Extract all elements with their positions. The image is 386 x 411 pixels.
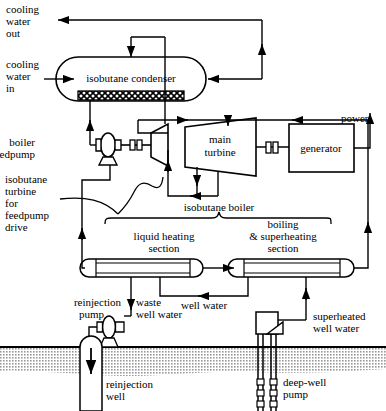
superheated-well-water-line1: superheated [313,310,366,322]
cooling-water-in-line3: in [6,82,15,94]
liquid-heating-shell [80,259,203,277]
liquid-heating-line2: section [148,242,180,254]
reinjection-pump-line1: reinjection [74,296,122,308]
boiling-superheating-shell [228,259,354,277]
liquid-heating-line1: liquid heating [134,230,195,242]
drive-turbine-body [151,124,168,166]
deep-well-pump-line2: pump [283,388,309,400]
reinjection-pump-base [100,338,118,347]
isobutane-turbine-line4: feedpump [5,209,49,221]
isobutane-turbine-line1: isobutane [5,173,47,185]
cooling-water-in-line2: water [6,70,31,82]
feedpump-impeller-casing [101,133,116,157]
reinjection-pump-casing [103,316,116,338]
generator-label: generator [300,142,342,154]
condenser-label: isobutane condenser [86,72,176,84]
isobutane-turbine-line3: for [5,197,18,209]
cooling-water-out-line2: water [6,15,31,27]
generator-shaft-coupling [256,142,289,153]
boiling-superheating-line1: boiling [267,218,299,230]
feedpump-discharge-nozzle [115,140,121,150]
diagram-canvas: isobutane condenser [0,0,386,411]
boiler-feedpump [96,133,121,165]
reinjection-well-line2: well [106,390,125,402]
reinjection-well [80,336,102,411]
power-label: power [341,112,369,124]
isobutane-turbine-line5: drive [5,221,28,233]
feedpump-base [99,157,117,165]
feedpump-shaft-coupling [121,140,151,150]
main-turbine: main turbine [185,118,256,176]
isobutane-feed-pipe [82,165,110,268]
waste-well-water-pipe [124,277,131,316]
liquid-heating-section [80,259,203,277]
boiling-superheating-line2: & superheating [249,230,317,242]
cooling-water-out-line3: out [6,27,20,39]
condenser-tube-bundle [78,91,184,100]
boiling-superheating-line3: section [267,242,299,254]
isobutane-boiler-label: isobutane boiler [184,201,255,213]
ground-fill [0,347,386,376]
process-flow-diagram: isobutane condenser [0,0,386,411]
reinjection-pump-suction-nozzle [97,322,103,332]
boiling-superheating-section [228,259,354,277]
generator: generator [289,124,354,172]
deep-well-pump-line1: deep-well [283,376,326,388]
boiler-feedpump-line2: feedpump [0,148,35,160]
reinjection-pump-discharge-nozzle [116,322,125,332]
isobutane-condenser: isobutane condenser [56,57,206,101]
feedpump-suction-nozzle [96,139,101,151]
cooling-water-out-line1: cooling [6,3,39,15]
well-water-crossover-pipe [160,277,248,296]
main-turbine-label-line2: turbine [204,146,235,158]
isobutane-turbine-line2: turbine [5,185,36,197]
cooling-water-in-line1: cooling [6,58,39,70]
waste-well-water-line2: well water [136,308,182,320]
superheated-well-water-pipe [276,277,306,320]
isobutane-drive-turbine [151,124,168,166]
deep-well-pump-stages [257,379,277,407]
boiler-feedpump-line1: boiler [9,136,35,148]
waste-well-water-line1: waste [136,296,161,308]
reinjection-pump-line2: pump [79,308,105,320]
condensate-pipe [90,100,96,145]
superheated-well-water-line2: well water [313,322,359,334]
reinjection-well-line1: reinjection [106,378,154,390]
isobutane-turbine-leader-line [60,177,163,214]
well-water-label: well water [181,299,227,311]
main-turbine-label-line1: main [209,133,231,145]
ground-layer [0,347,386,376]
